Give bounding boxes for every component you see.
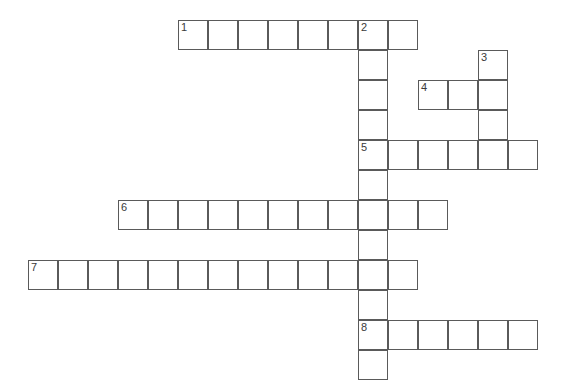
crossword-cell[interactable]: 2 [358, 20, 388, 50]
crossword-cell[interactable] [298, 20, 328, 50]
crossword-cell[interactable] [478, 140, 508, 170]
crossword-cell[interactable] [358, 200, 388, 230]
crossword-cell[interactable] [388, 320, 418, 350]
clue-number: 1 [181, 21, 187, 33]
crossword-cell[interactable] [388, 140, 418, 170]
clue-number: 6 [121, 201, 127, 213]
crossword-cell[interactable] [418, 200, 448, 230]
crossword-cell[interactable] [478, 80, 508, 110]
crossword-cell[interactable] [268, 20, 298, 50]
crossword-cell[interactable] [148, 200, 178, 230]
crossword-cell[interactable] [118, 260, 148, 290]
crossword-cell[interactable] [358, 80, 388, 110]
crossword-cell[interactable] [508, 320, 538, 350]
crossword-cell[interactable] [478, 320, 508, 350]
crossword-cell[interactable] [58, 260, 88, 290]
crossword-cell[interactable]: 7 [28, 260, 58, 290]
crossword-cell[interactable]: 3 [478, 50, 508, 80]
clue-number: 2 [361, 21, 367, 33]
crossword-cell[interactable] [448, 140, 478, 170]
clue-number: 5 [361, 141, 367, 153]
crossword-cell[interactable] [238, 260, 268, 290]
crossword-cell[interactable]: 6 [118, 200, 148, 230]
crossword-cell[interactable] [358, 350, 388, 380]
crossword-cell[interactable] [508, 140, 538, 170]
crossword-cell[interactable] [358, 230, 388, 260]
crossword-cell[interactable] [358, 50, 388, 80]
crossword-cell[interactable] [298, 260, 328, 290]
crossword-cell[interactable] [328, 20, 358, 50]
crossword-cell[interactable] [418, 140, 448, 170]
crossword-cell[interactable] [148, 260, 178, 290]
crossword-cell[interactable] [328, 260, 358, 290]
crossword-cell[interactable] [448, 80, 478, 110]
crossword-cell[interactable] [208, 200, 238, 230]
crossword-cell[interactable] [178, 260, 208, 290]
crossword-cell[interactable]: 5 [358, 140, 388, 170]
crossword-cell[interactable] [298, 200, 328, 230]
crossword-cell[interactable] [388, 200, 418, 230]
crossword-cell[interactable]: 8 [358, 320, 388, 350]
crossword-cell[interactable] [178, 200, 208, 230]
crossword-cell[interactable] [328, 200, 358, 230]
crossword-cell[interactable] [358, 290, 388, 320]
crossword-cell[interactable] [358, 110, 388, 140]
crossword-cell[interactable]: 1 [178, 20, 208, 50]
crossword-cell[interactable] [268, 200, 298, 230]
crossword-cell[interactable] [208, 260, 238, 290]
clue-number: 4 [421, 81, 427, 93]
crossword-cell[interactable] [238, 200, 268, 230]
crossword-cell[interactable] [358, 260, 388, 290]
crossword-cell[interactable] [238, 20, 268, 50]
crossword-cell[interactable] [478, 110, 508, 140]
clue-number: 3 [481, 51, 487, 63]
crossword-cell[interactable] [448, 320, 478, 350]
crossword-cell[interactable] [388, 20, 418, 50]
crossword-cell[interactable] [208, 20, 238, 50]
crossword-cell[interactable] [388, 260, 418, 290]
crossword-cell[interactable] [358, 170, 388, 200]
crossword-cell[interactable] [268, 260, 298, 290]
clue-number: 8 [361, 321, 367, 333]
crossword-grid: 12345678 [0, 0, 569, 392]
crossword-cell[interactable] [88, 260, 118, 290]
crossword-cell[interactable] [418, 320, 448, 350]
crossword-cell[interactable]: 4 [418, 80, 448, 110]
clue-number: 7 [31, 261, 37, 273]
